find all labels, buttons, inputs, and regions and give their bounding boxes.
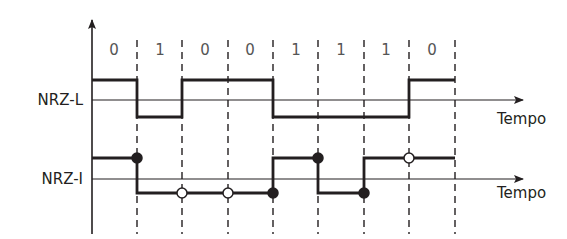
no-transition-marker-open (177, 188, 187, 198)
bit-label: 1 (291, 41, 301, 59)
nrz-i-label: NRZ-I (42, 170, 84, 188)
transition-marker-filled (359, 188, 369, 198)
nrz-encoding-diagram: 0 1 0 0 1 1 1 0 NRZ-L Tempo NRZ-I Tempo (0, 0, 567, 239)
nrz-l-waveform (92, 80, 455, 117)
bit-label: 0 (109, 41, 119, 59)
bit-label: 0 (245, 41, 255, 59)
nrz-i-time-label: Tempo (496, 184, 546, 202)
transition-marker-filled (268, 188, 278, 198)
no-transition-marker-open (404, 153, 414, 163)
bit-label: 1 (381, 41, 391, 59)
bit-label: 0 (427, 41, 437, 59)
transition-marker-filled (313, 153, 323, 163)
bit-label: 1 (336, 41, 346, 59)
nrz-l-label: NRZ-L (38, 91, 84, 109)
bit-label: 0 (200, 41, 210, 59)
nrz-l-time-label: Tempo (496, 110, 546, 128)
bit-label: 1 (155, 41, 165, 59)
bit-boundaries (137, 40, 455, 234)
no-transition-marker-open (223, 188, 233, 198)
transition-marker-filled (132, 153, 142, 163)
